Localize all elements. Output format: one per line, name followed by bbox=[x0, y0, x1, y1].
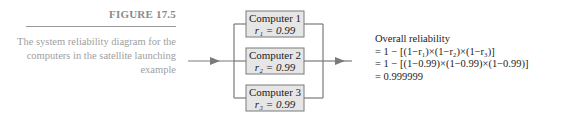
component-box-1: Computer 1 r₁ = 0.99 bbox=[246, 11, 304, 37]
input-arrow-icon bbox=[210, 57, 220, 65]
component-box-2: Computer 2 r₂ = 0.99 bbox=[246, 48, 304, 74]
output-arrow-icon bbox=[335, 57, 345, 65]
svg-text:Computer 3: Computer 3 bbox=[249, 86, 302, 98]
caption-rule bbox=[26, 26, 176, 27]
formula-line-2: = 1 − [(1−0.99)×(1−0.99)×(1−0.99)] bbox=[375, 58, 528, 71]
svg-text:r₂ = 0.99: r₂ = 0.99 bbox=[255, 61, 296, 73]
component-box-3: Computer 3 r₃ = 0.99 bbox=[246, 85, 304, 111]
reliability-formula: Overall reliability = 1 − [(1−r₁)×(1−r₂)… bbox=[375, 33, 528, 83]
formula-title: Overall reliability bbox=[375, 33, 528, 46]
formula-line-3: = 0.999999 bbox=[375, 71, 528, 84]
svg-text:Computer 1: Computer 1 bbox=[249, 12, 301, 24]
reliability-diagram: Computer 1 r₁ = 0.99 Computer 2 r₂ = 0.9… bbox=[180, 0, 360, 115]
figure-label: FIGURE 17.5 bbox=[109, 8, 176, 20]
svg-text:Computer 2: Computer 2 bbox=[249, 49, 301, 61]
svg-text:r₁ = 0.99: r₁ = 0.99 bbox=[255, 24, 296, 36]
svg-text:r₃ = 0.99: r₃ = 0.99 bbox=[255, 98, 296, 110]
caption-text: The system reliability diagram for the c… bbox=[0, 35, 176, 77]
formula-line-1: = 1 − [(1−r₁)×(1−r₂)×(1−r₃)] bbox=[375, 46, 528, 59]
